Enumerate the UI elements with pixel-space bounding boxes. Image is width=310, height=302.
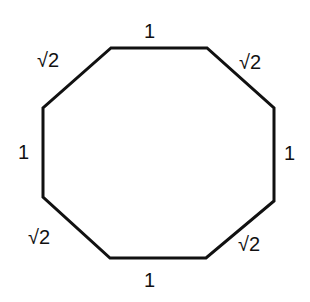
- label-bottom-right: √2: [238, 234, 260, 254]
- octagon-svg: [0, 0, 310, 302]
- label-bottom: 1: [144, 270, 155, 290]
- label-bottom-left: √2: [28, 227, 50, 247]
- label-top-right: √2: [239, 52, 261, 72]
- label-right: 1: [284, 143, 295, 163]
- octagon-diagram: 1 √2 1 √2 1 √2 1 √2: [0, 0, 310, 302]
- label-top: 1: [144, 21, 155, 41]
- label-top-left: √2: [37, 50, 59, 70]
- octagon-shape: [43, 48, 274, 258]
- label-left: 1: [18, 142, 29, 162]
